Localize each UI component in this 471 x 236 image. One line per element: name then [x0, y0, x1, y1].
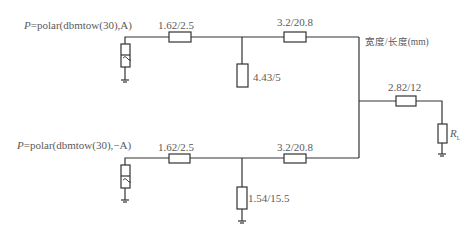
ground-bottom-source-icon — [121, 200, 129, 202]
bottom-shunt-label: 1.54/15.5 — [248, 193, 290, 204]
ground-bottom-shunt-icon — [238, 221, 246, 223]
load-subscript: L — [457, 135, 461, 141]
resistor-output-series — [396, 96, 416, 106]
resistor-top-series-2 — [284, 32, 306, 42]
resistor-top-shunt — [237, 64, 248, 87]
ground-top-source-icon — [121, 80, 129, 82]
top-shunt-label: 4.43/5 — [253, 72, 281, 83]
source-bottom-label: P=polar(dbmtow(30),−A) — [17, 140, 131, 151]
top-series-1-label: 1.62/2.5 — [158, 20, 194, 31]
power-source-top-icon — [121, 44, 131, 67]
circuit-schematic — [0, 0, 471, 236]
source-bottom-expression: =polar(dbmtow(30),−A) — [24, 139, 131, 151]
source-bottom-prefix: P — [17, 139, 24, 151]
output-series-label: 2.82/12 — [388, 82, 421, 93]
source-top-expression: =polar(dbmtow(30),A) — [31, 19, 132, 31]
resistor-bottom-shunt — [237, 187, 247, 209]
top-series-2-label: 3.2/20.8 — [277, 17, 313, 28]
bottom-series-2-label: 3.2/20.8 — [277, 142, 313, 153]
bottom-series-1-label: 1.62/2.5 — [158, 142, 194, 153]
resistor-load — [438, 124, 447, 143]
power-source-bottom-icon — [121, 165, 131, 188]
resistor-bottom-series-1 — [169, 154, 190, 163]
load-label: RL — [450, 128, 460, 141]
resistor-top-series-1 — [169, 32, 191, 42]
source-top-prefix: P — [24, 19, 31, 31]
units-label: 宽度/长度(mm) — [365, 38, 429, 48]
ground-load-icon — [438, 154, 446, 156]
load-symbol: R — [450, 127, 457, 139]
resistor-bottom-series-2 — [284, 154, 306, 163]
source-top-label: P=polar(dbmtow(30),A) — [24, 20, 132, 31]
